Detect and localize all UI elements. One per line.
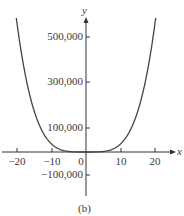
y-tick-label-100000: 100,000 bbox=[13, 122, 83, 133]
x-tick-label-20: 20 bbox=[143, 156, 167, 167]
x-tick-label-neg10: −10 bbox=[40, 156, 64, 167]
x-axis-label: x bbox=[177, 146, 182, 157]
x-tick-label-10: 10 bbox=[109, 156, 133, 167]
y-tick-label-300000: 300,000 bbox=[13, 76, 83, 87]
x-axis-arrow-icon bbox=[170, 150, 176, 155]
y-tick-label-500000: 500,000 bbox=[13, 31, 83, 42]
y-ticks bbox=[86, 37, 90, 175]
y-axis-label: y bbox=[82, 5, 87, 16]
y-axis-arrow-icon bbox=[84, 17, 89, 23]
x-tick-label-neg20: −20 bbox=[5, 156, 29, 167]
figure-caption: (b) bbox=[78, 203, 91, 214]
x-tick-label-0: 0 bbox=[69, 156, 93, 167]
y-tick-label-neg100000: −100,000 bbox=[13, 169, 83, 180]
